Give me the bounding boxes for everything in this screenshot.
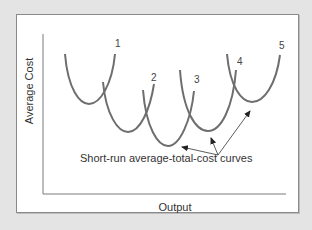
chart-canvas	[0, 0, 312, 230]
curve-label-3: 3	[194, 74, 200, 85]
y-axis-label: Average Cost	[23, 46, 39, 136]
curve-label-2: 2	[151, 72, 157, 83]
curve-label-5: 5	[279, 40, 285, 51]
curve-label-1: 1	[115, 38, 121, 49]
curves-annotation: Short-run average-total-cost curves	[80, 152, 252, 164]
arrow-to-curve-5	[218, 111, 250, 155]
curve-1	[65, 54, 115, 104]
curve-2	[103, 82, 154, 132]
x-axis-label: Output	[140, 201, 210, 213]
curve-label-4: 4	[237, 56, 243, 67]
